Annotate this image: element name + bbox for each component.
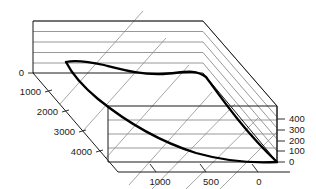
curve-lower-branch — [66, 62, 277, 162]
data-curve-group — [66, 61, 277, 162]
back-wall-gridlines — [33, 21, 203, 63]
left-axis-tick-label-4000: 4000 — [71, 146, 92, 157]
perspective-plot-svg: 0 1000 2000 3000 4000 1000 500 0 400 300… — [0, 0, 316, 189]
right-axis-tick-label-300: 300 — [289, 124, 305, 135]
right-axis-tick-label-100: 100 — [289, 145, 305, 156]
curve-upper-branch — [66, 61, 277, 162]
bottom-axis-tick-label-1000: 1000 — [149, 176, 170, 187]
bottom-axis-labels: 1000 500 0 — [149, 176, 261, 187]
right-axis-tick-label-0: 0 — [289, 156, 294, 167]
right-axis-tick-label-400: 400 — [289, 113, 305, 124]
bottom-axis-tick-label-500: 500 — [203, 176, 219, 187]
right-axis-ticks — [277, 119, 285, 162]
left-axis-tick-label-3000: 3000 — [54, 126, 75, 137]
left-axis-tick-label-0: 0 — [19, 67, 24, 78]
chart-container: 0 1000 2000 3000 4000 1000 500 0 400 300… — [0, 0, 316, 189]
left-axis-tick-label-2000: 2000 — [37, 106, 58, 117]
right-axis-labels: 400 300 200 100 0 — [289, 113, 305, 167]
left-axis-tick-label-1000: 1000 — [20, 86, 41, 97]
bottom-axis-tick-label-0: 0 — [256, 176, 261, 187]
